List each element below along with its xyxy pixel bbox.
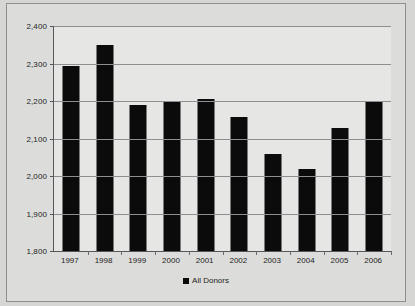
y-tick-label: 2,200: [7, 97, 47, 106]
x-tick-mark: [88, 251, 89, 255]
gridline: [54, 26, 391, 27]
x-tick-mark: [121, 251, 122, 255]
chart-figure: 1,8001,9002,0002,1002,2002,3002,400 1997…: [0, 0, 415, 306]
y-tick-label: 2,100: [7, 134, 47, 143]
plot-area: [53, 26, 391, 252]
x-tick-mark: [189, 251, 190, 255]
gridline: [54, 101, 391, 102]
x-tick-label: 2000: [162, 256, 180, 265]
y-tick-mark: [50, 214, 54, 215]
x-tick-mark: [290, 251, 291, 255]
x-tick-label: 2005: [331, 256, 349, 265]
bar: [62, 66, 79, 251]
x-tick-label: 2002: [229, 256, 247, 265]
x-tick-mark: [391, 251, 392, 255]
x-tick-label: 1999: [128, 256, 146, 265]
y-tick-mark: [50, 101, 54, 102]
x-tick-mark: [155, 251, 156, 255]
square-marker-icon: [183, 278, 189, 284]
x-tick-mark: [357, 251, 358, 255]
plot-wrapper: 1,8001,9002,0002,1002,2002,3002,400 1997…: [7, 4, 405, 301]
bar: [265, 154, 282, 251]
bar: [332, 128, 349, 251]
x-tick-mark: [223, 251, 224, 255]
gridline: [54, 176, 391, 177]
y-tick-label: 2,300: [7, 59, 47, 68]
bar: [96, 45, 113, 251]
x-tick-label: 1997: [61, 256, 79, 265]
y-tick-mark: [50, 64, 54, 65]
chart-frame: 1,8001,9002,0002,1002,2002,3002,400 1997…: [6, 3, 406, 302]
y-tick-label: 2,000: [7, 172, 47, 181]
x-tick-label: 2003: [263, 256, 281, 265]
bar: [298, 169, 315, 251]
x-tick-mark: [256, 251, 257, 255]
x-tick-label: 2004: [297, 256, 315, 265]
gridline: [54, 139, 391, 140]
x-tick-label: 2006: [364, 256, 382, 265]
x-tick-mark: [324, 251, 325, 255]
y-tick-label: 1,800: [7, 247, 47, 256]
bar: [231, 117, 248, 251]
gridline: [54, 214, 391, 215]
y-tick-label: 2,400: [7, 22, 47, 31]
bar: [130, 105, 147, 251]
x-tick-label: 1998: [95, 256, 113, 265]
y-tick-mark: [50, 176, 54, 177]
y-tick-label: 1,900: [7, 209, 47, 218]
x-tick-label: 2001: [196, 256, 214, 265]
legend-label-all-donors: All Donors: [192, 276, 229, 285]
y-tick-mark: [50, 26, 54, 27]
y-tick-mark: [50, 251, 54, 252]
gridline: [54, 64, 391, 65]
chart-legend: All Donors: [7, 276, 405, 285]
y-tick-mark: [50, 139, 54, 140]
